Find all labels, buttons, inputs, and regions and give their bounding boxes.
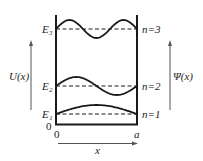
origin-y-label: 0 <box>46 120 52 132</box>
energy-label-e3: E₃ <box>41 23 53 35</box>
square-well-diagram: E₃ E₂ E₁ 0 n=3 n=2 n=1 U(x) Ψ(x) 0 a x <box>0 0 203 161</box>
width-label: a <box>134 128 140 140</box>
psi-axis-label: Ψ(x) <box>173 70 193 83</box>
origin-x-label: 0 <box>54 128 60 140</box>
energy-label-e1: E₁ <box>41 108 53 120</box>
n-label-3: n=3 <box>142 23 161 35</box>
x-axis-label: x <box>94 144 100 156</box>
n-label-2: n=2 <box>142 80 161 92</box>
energy-label-e2: E₂ <box>41 80 53 92</box>
n-label-1: n=1 <box>142 108 160 120</box>
u-axis-label: U(x) <box>9 70 29 83</box>
wavefunction-n1 <box>56 105 137 114</box>
x-arrow-head-icon <box>132 142 138 146</box>
u-arrow-head-icon <box>29 40 33 46</box>
psi-arrow-head-icon <box>168 40 172 46</box>
